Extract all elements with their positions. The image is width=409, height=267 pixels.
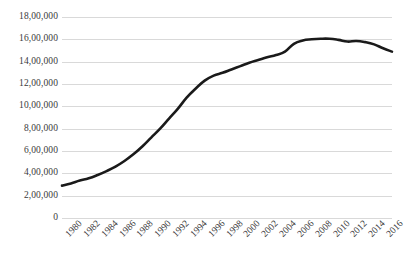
x-axis-tick-label: 2004: [278, 219, 298, 239]
y-axis-tick-label: 14,00,000: [2, 57, 58, 67]
y-axis-tick-label: 8,00,000: [2, 124, 58, 134]
x-axis-tick-label: 2002: [260, 219, 280, 239]
x-axis-tick-label: 1980: [64, 219, 84, 239]
x-axis-tick-label: 1984: [100, 219, 120, 239]
y-axis-tick-label: 18,00,000: [2, 12, 58, 22]
x-axis-tick-label: 2014: [367, 219, 387, 239]
y-axis-tick-label: 16,00,000: [2, 34, 58, 44]
x-axis: 1980198219841986198819901992199419961998…: [62, 219, 392, 267]
y-axis-tick-label: 2,00,000: [2, 191, 58, 201]
y-axis: 18,00,00016,00,00014,00,00012,00,00010,0…: [0, 0, 58, 267]
y-axis-tick-label: 10,00,000: [2, 101, 58, 111]
y-axis-tick-label: 0: [2, 213, 58, 223]
x-axis-tick-label: 2012: [349, 219, 369, 239]
x-axis-tick-label: 1986: [118, 219, 138, 239]
x-axis-tick-label: 1996: [207, 219, 227, 239]
x-axis-tick-label: 1982: [82, 219, 102, 239]
plot-area: [62, 17, 392, 218]
x-axis-tick-label: 1994: [189, 219, 209, 239]
x-axis-tick-label: 2000: [242, 219, 262, 239]
x-axis-tick-label: 2008: [314, 219, 334, 239]
x-axis-tick-label: 2016: [385, 219, 405, 239]
x-axis-tick-label: 1990: [153, 219, 173, 239]
y-axis-tick-label: 12,00,000: [2, 79, 58, 89]
y-axis-tick-label: 4,00,000: [2, 168, 58, 178]
series-line: [62, 17, 392, 218]
y-axis-tick-label: 6,00,000: [2, 146, 58, 156]
x-axis-tick-label: 2006: [296, 219, 316, 239]
x-axis-tick-label: 1988: [135, 219, 155, 239]
line-chart: 18,00,00016,00,00014,00,00012,00,00010,0…: [0, 0, 409, 267]
series-path: [62, 39, 392, 186]
x-axis-tick-label: 1998: [225, 219, 245, 239]
x-axis-tick-label: 1992: [171, 219, 191, 239]
x-axis-tick-label: 2010: [332, 219, 352, 239]
